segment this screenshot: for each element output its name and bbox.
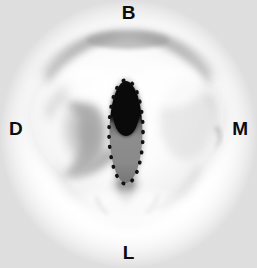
orientation-label-mesial: M [232,119,248,138]
tooth-occlusal-svg [0,0,257,268]
specimen-image [0,0,257,268]
orientation-label-distal: D [9,119,23,138]
orientation-label-lingual: L [0,243,257,262]
orientation-label-buccal: B [0,3,257,22]
anatomical-figure: B D M L [0,0,257,268]
annotation-dotted-ellipse [107,78,145,186]
